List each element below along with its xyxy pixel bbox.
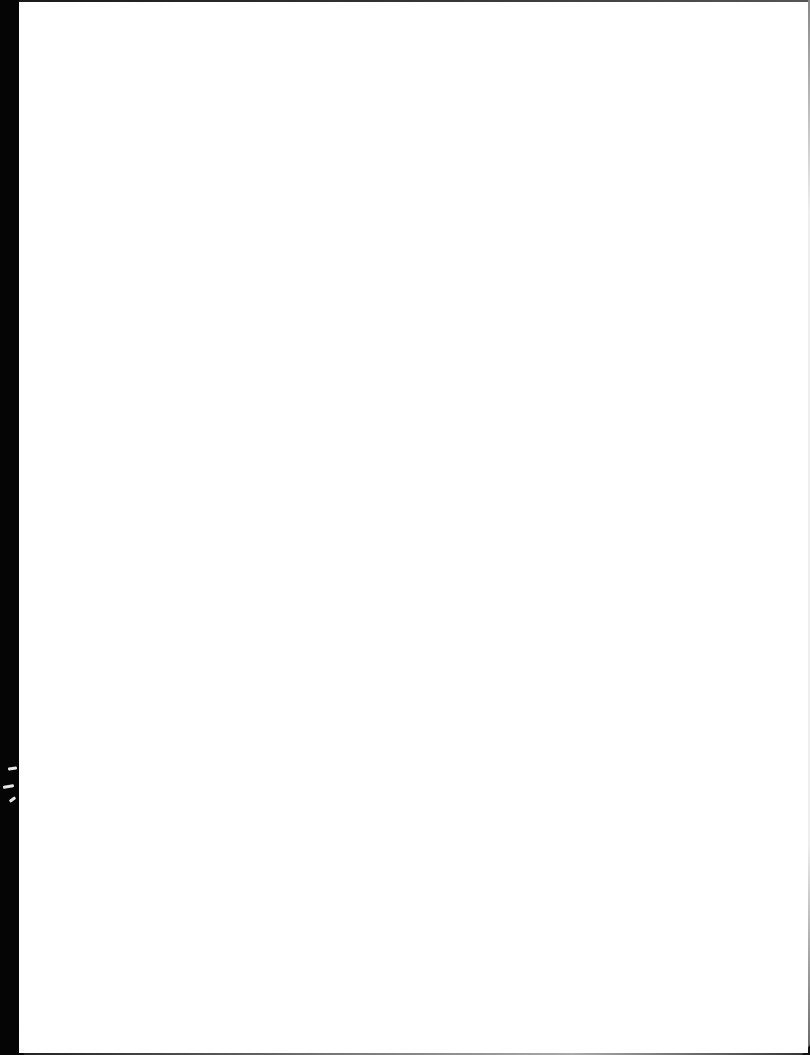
scan-artifact-mark: [8, 766, 17, 770]
scan-artifact-mark: [3, 784, 14, 789]
blank-page: [19, 2, 808, 1053]
scanner-left-border: [0, 0, 19, 1055]
scan-artifact-mark: [9, 796, 16, 802]
